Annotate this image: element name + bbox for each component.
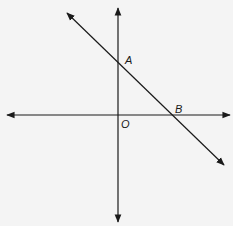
line-ab	[67, 13, 224, 165]
origin-label: O	[121, 118, 130, 130]
coordinate-diagram: A B O	[0, 0, 233, 226]
point-b-label: B	[175, 103, 182, 115]
point-a-label: A	[124, 54, 132, 66]
